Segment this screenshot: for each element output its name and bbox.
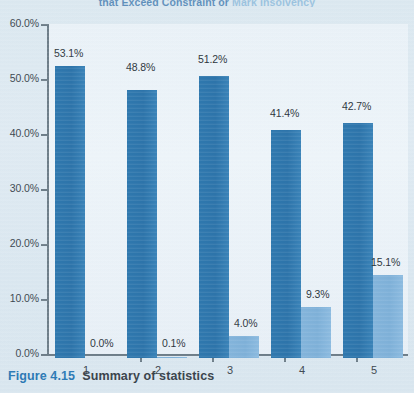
y-axis-label-wrap: 20.0%: [0, 238, 39, 249]
y-axis-label-wrap: 0.0%: [0, 348, 39, 359]
bar-group: [343, 27, 405, 358]
y-axis-tick: [41, 134, 48, 136]
y-axis-label: 30.0%: [0, 183, 39, 194]
y-axis-label-wrap: 50.0%: [0, 73, 39, 84]
bar-value-label: 41.4%: [270, 108, 299, 119]
y-axis-tick: [41, 244, 48, 246]
y-axis-tick: [41, 189, 48, 191]
bar-secondary: [157, 357, 187, 358]
figure-caption-number: Figure 4.15: [8, 369, 75, 383]
bar-primary: [343, 123, 373, 358]
y-axis-tick: [41, 299, 48, 301]
figure-page: that Exceed Constraint or Mark Insolvenc…: [0, 0, 414, 393]
y-axis-tick: [41, 24, 48, 26]
figure-caption: Figure 4.15 Summary of statistics: [8, 369, 214, 384]
bar-value-label: 48.8%: [126, 62, 155, 73]
bar-primary: [271, 130, 301, 358]
y-axis-label: 0.0%: [0, 348, 39, 359]
bar-group: [55, 27, 117, 358]
bar-value-label: 51.2%: [198, 54, 227, 65]
y-axis-label: 20.0%: [0, 238, 39, 249]
bar-primary: [199, 76, 229, 358]
chart-plot-area: 60.0% 50.0% 40.0% 30.0% 20.0% 10.0% 0.0%: [0, 10, 414, 358]
x-axis-label: 4: [287, 364, 317, 376]
bar-secondary: [373, 275, 403, 358]
y-axis-label: 40.0%: [0, 128, 39, 139]
y-axis-tick: [41, 79, 48, 81]
bar-group: [127, 27, 189, 358]
bar-value-label: 15.1%: [371, 257, 400, 268]
bar-value-label: 9.3%: [306, 289, 330, 300]
bar-secondary: [301, 307, 331, 358]
y-axis-label-wrap: 40.0%: [0, 128, 39, 139]
figure-caption-text: Summary of statistics: [82, 369, 214, 383]
bar-value-label: 4.0%: [234, 318, 258, 329]
bar-value-label: 42.7%: [342, 101, 371, 112]
bar-group: [271, 27, 333, 358]
y-axis-label-wrap: 60.0%: [0, 18, 39, 29]
bar-primary: [55, 66, 85, 358]
y-axis-label-wrap: 30.0%: [0, 183, 39, 194]
bar-value-label: 0.1%: [162, 338, 186, 349]
x-axis-label: 5: [359, 364, 389, 376]
bar-value-label: 53.1%: [54, 48, 83, 59]
bar-group: [199, 27, 261, 358]
y-axis-label-wrap: 10.0%: [0, 293, 39, 304]
bar-value-label: 0.0%: [90, 338, 114, 349]
y-axis-label: 60.0%: [0, 18, 39, 29]
chart-title-secondary: Mark Insolvency: [232, 0, 315, 7]
bar-secondary: [229, 336, 259, 358]
y-axis-label: 10.0%: [0, 293, 39, 304]
y-axis-label: 50.0%: [0, 73, 39, 84]
chart-title-primary: that Exceed Constraint or: [99, 0, 229, 7]
bar-primary: [127, 90, 157, 358]
x-axis-label: 3: [215, 364, 245, 376]
chart-title: that Exceed Constraint or Mark Insolvenc…: [0, 0, 414, 7]
